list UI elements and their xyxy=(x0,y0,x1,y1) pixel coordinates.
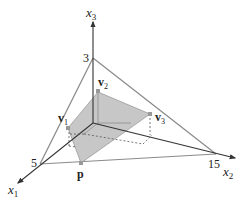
diagram-canvas: x3 x2 x1 3 15 5 v2 v1 v3 p xyxy=(0,0,251,206)
x3-label: x3 xyxy=(85,5,97,22)
x2-label: x2 xyxy=(222,164,233,181)
v2-label: v2 xyxy=(98,75,108,91)
v1-label: v1 xyxy=(58,111,68,127)
x2-axis xyxy=(93,123,235,158)
x2-intercept-label: 15 xyxy=(208,157,220,171)
x1-intercept-label: 5 xyxy=(31,156,37,170)
p-label: p xyxy=(77,167,84,181)
x3-intercept-label: 3 xyxy=(83,51,89,65)
diagram-svg: x3 x2 x1 3 15 5 v2 v1 v3 p xyxy=(0,0,251,206)
x1-label: x1 xyxy=(7,182,18,199)
